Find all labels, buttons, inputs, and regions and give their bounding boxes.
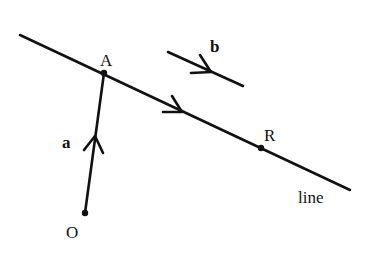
point-A-dot [101,70,107,76]
label-vector-b: b [210,37,219,56]
label-line: line [298,188,324,207]
point-O-dot [82,210,88,216]
main-line [20,35,350,190]
label-vector-a: a [62,133,71,152]
point-R-dot [258,145,264,151]
label-O: O [66,223,78,242]
label-A: A [100,51,113,70]
vector-b-line [168,52,243,86]
label-R: R [264,126,276,145]
vector-line-diagram: A R O a b line [0,0,371,253]
